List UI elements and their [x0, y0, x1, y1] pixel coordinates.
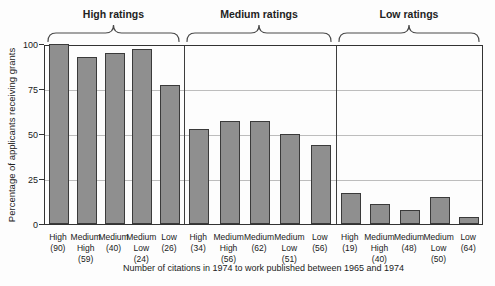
group-braces — [0, 0, 495, 286]
brace-high-ratings — [48, 25, 179, 42]
group-label-high-ratings: High ratings — [83, 8, 144, 20]
grant-ratings-citations-bar-chart: Percentage of applicants receiving grant… — [0, 0, 495, 286]
group-label-medium-ratings: Medium ratings — [220, 8, 298, 20]
brace-medium-ratings — [187, 25, 331, 42]
group-label-low-ratings: Low ratings — [380, 8, 439, 20]
x-axis-caption: Number of citations in 1974 to work publ… — [44, 263, 483, 273]
brace-low-ratings — [339, 25, 479, 42]
